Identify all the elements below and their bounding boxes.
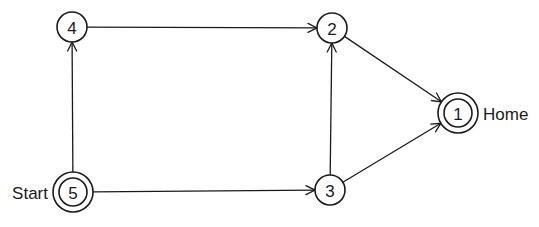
edge-4-to-2 [87,23,317,32]
edge-line [72,42,73,172]
node-2: 2 [317,13,347,43]
node-label: 5 [68,184,77,203]
nodes-layer: 1Home2345Start [12,12,528,212]
node-1: 1Home [438,93,528,133]
arrowhead-icon [431,123,441,131]
start-label: Start [12,184,48,203]
edge-line [344,36,441,101]
edge-line [93,190,315,192]
edge-3-to-2 [327,43,336,175]
edges-layer [68,23,442,194]
edge-line [330,43,332,175]
node-label: 3 [325,182,334,201]
edge-5-to-3 [93,186,315,195]
node-label: 2 [327,20,336,39]
node-5: 5Start [12,172,93,212]
edge-3-to-1 [343,123,441,182]
edge-line [87,27,317,28]
node-label: 1 [453,105,462,124]
edge-2-to-1 [344,36,441,101]
node-4: 4 [57,12,87,42]
graph-diagram: 1Home2345Start [0,0,539,227]
edge-5-to-4 [68,42,77,172]
edge-line [343,123,441,182]
graph-svg: 1Home2345Start [0,0,539,227]
node-label: 4 [67,19,76,38]
node-3: 3 [315,175,345,205]
home-label: Home [483,105,528,124]
